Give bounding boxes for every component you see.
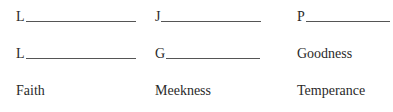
word-meekness: Meekness <box>155 83 211 99</box>
word-faith: Faith <box>16 83 45 99</box>
hint-letter: L <box>16 9 25 25</box>
blank-gentleness[interactable]: G <box>155 46 260 62</box>
answer-line[interactable] <box>166 57 260 59</box>
fruit-word: Faith <box>16 83 45 99</box>
hint-letter: G <box>155 46 165 62</box>
fruit-word: Meekness <box>155 83 211 99</box>
blank-peace[interactable]: P <box>297 9 390 25</box>
hint-letter: P <box>297 9 305 25</box>
fruit-word: Goodness <box>297 46 352 62</box>
answer-line[interactable] <box>161 20 261 22</box>
answer-line[interactable] <box>26 57 136 59</box>
blank-longsuffering[interactable]: L <box>16 46 136 62</box>
blank-love[interactable]: L <box>16 9 136 25</box>
answer-line[interactable] <box>306 20 390 22</box>
hint-letter: J <box>155 9 160 25</box>
word-goodness: Goodness <box>297 46 352 62</box>
answer-line[interactable] <box>26 20 136 22</box>
word-temperance: Temperance <box>297 83 365 99</box>
hint-letter: L <box>16 46 25 62</box>
fruit-word: Temperance <box>297 83 365 99</box>
blank-joy[interactable]: J <box>155 9 261 25</box>
